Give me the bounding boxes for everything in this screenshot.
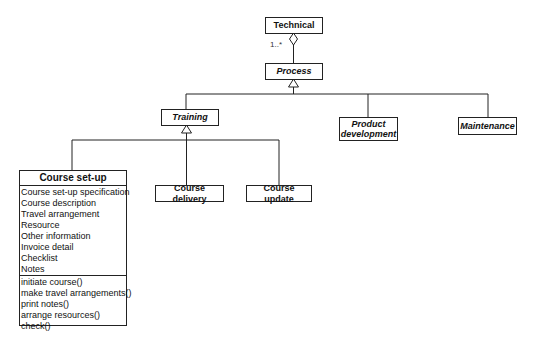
- operation: arrange resources(): [21, 310, 124, 321]
- class-course-delivery[interactable]: Course delivery: [155, 185, 224, 202]
- attribute: Course set-up specification: [21, 187, 124, 198]
- class-technical[interactable]: Technical: [265, 17, 323, 34]
- multiplicity-label: 1..*: [270, 40, 282, 49]
- attribute: Checklist: [21, 253, 124, 264]
- operation: check(): [21, 321, 124, 332]
- class-course-update[interactable]: Course update: [246, 185, 312, 202]
- attribute: Notes: [21, 264, 124, 275]
- class-maintenance[interactable]: Maintenance: [458, 117, 517, 135]
- operation: make travel arrangements(): [21, 288, 124, 299]
- class-process[interactable]: Process: [265, 63, 323, 80]
- class-training[interactable]: Training: [161, 109, 219, 126]
- attribute: Invoice detail: [21, 242, 124, 253]
- attributes-compartment: Course set-up specification Course descr…: [20, 186, 126, 275]
- operation: initiate course(): [21, 277, 124, 288]
- operation: print notes(): [21, 299, 124, 310]
- aggregation-diamond-icon: [290, 33, 298, 45]
- operations-compartment: initiate course() make travel arrangemen…: [20, 275, 126, 332]
- inheritance-triangle-icon: [182, 125, 192, 133]
- generalization-process: [186, 79, 488, 117]
- class-product-development[interactable]: Product development: [339, 117, 398, 141]
- attribute: Travel arrangement: [21, 209, 124, 220]
- inheritance-triangle-icon: [289, 79, 299, 87]
- class-course-setup[interactable]: Course set-up Course set-up specificatio…: [19, 170, 127, 326]
- aggregation-technical-process: [290, 33, 298, 63]
- attribute: Course description: [21, 198, 124, 209]
- attribute: Other information: [21, 231, 124, 242]
- class-name: Course set-up: [20, 171, 126, 186]
- attribute: Resource: [21, 220, 124, 231]
